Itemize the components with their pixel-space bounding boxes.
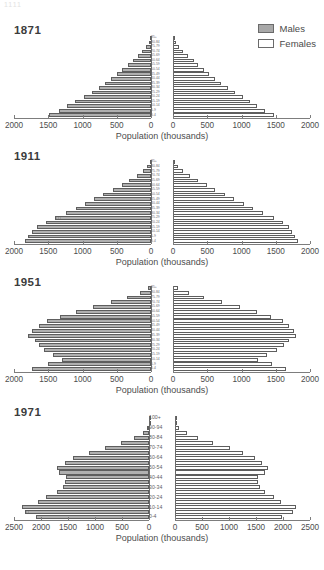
pyramid-panel-1971: 1971 0-410-1420-2430-3440-4450-5460-6470… — [0, 400, 324, 570]
bar-female — [173, 169, 183, 173]
bar-female — [173, 174, 190, 178]
bar-female — [173, 188, 215, 192]
bar-female — [173, 179, 198, 183]
bar-male — [105, 82, 151, 86]
bar-male — [93, 305, 151, 309]
bar-male — [111, 77, 151, 81]
bar-male — [111, 300, 151, 304]
center-axis-line — [151, 160, 152, 244]
x-tick-label: 500 — [200, 121, 214, 130]
center-axis-line — [173, 36, 174, 118]
age-group-label: 70-74 — [151, 174, 173, 177]
x-tick — [276, 241, 277, 244]
x-axis-title: Population (thousands) — [0, 533, 324, 543]
x-tick-label: 1000 — [86, 523, 104, 532]
x-axis-line — [14, 118, 151, 119]
bar-male — [28, 235, 151, 239]
bar-male — [59, 109, 151, 113]
bar-male — [46, 495, 149, 499]
age-group-label: 85+ — [151, 36, 173, 39]
bar-female — [173, 54, 188, 58]
age-group-label: 40-44 — [151, 77, 173, 80]
x-tick — [276, 115, 277, 118]
age-group-label: 70-74 — [151, 50, 173, 53]
bar-male — [60, 315, 151, 319]
x-tick-label: 500 — [115, 523, 129, 532]
x-tick-label: 2000 — [301, 375, 319, 384]
x-tick — [117, 241, 118, 244]
x-tick-label: 2000 — [301, 247, 319, 256]
age-group-label: 20-24 — [151, 95, 173, 98]
age-group-label: 80-84 — [151, 165, 173, 168]
bar-female — [173, 343, 284, 347]
age-group-label: 0-4 — [149, 514, 175, 519]
bar-male — [113, 188, 151, 192]
age-group-label: 25-29 — [151, 91, 173, 94]
age-group-label: 75-79 — [151, 170, 173, 173]
x-tick — [173, 369, 174, 372]
x-tick — [151, 115, 152, 118]
x-axis-title: Population (thousands) — [0, 131, 324, 141]
x-tick — [41, 517, 42, 520]
bar-male — [121, 441, 149, 445]
x-tick — [310, 241, 311, 244]
age-group-label: 60-64 — [149, 455, 175, 460]
x-tick — [14, 241, 15, 244]
age-group-label: 35-39 — [151, 334, 173, 337]
bar-male — [138, 54, 151, 58]
x-tick-label: 2000 — [5, 375, 23, 384]
legend-label-males: Males — [280, 23, 305, 34]
bar-male — [66, 211, 151, 215]
plot-area-1951: 0-45-910-1415-1920-2425-2930-3435-3940-4… — [0, 286, 324, 398]
bar-male — [117, 72, 151, 76]
bar-male — [143, 169, 151, 173]
bar-male — [63, 485, 149, 489]
age-group-label: 50-54 — [149, 465, 175, 470]
bar-male — [57, 466, 149, 470]
x-tick — [310, 115, 311, 118]
bar-female — [173, 72, 209, 76]
x-tick — [14, 517, 15, 520]
age-group-label: 65-69 — [151, 54, 173, 57]
x-tick-label: 0 — [171, 121, 176, 130]
x-tick — [68, 517, 69, 520]
legend-row-males: Males — [258, 23, 316, 34]
age-group-label: 80-84 — [149, 435, 175, 440]
x-tick-label: 0 — [147, 523, 152, 532]
bar-male — [32, 329, 151, 333]
bar-female — [173, 82, 221, 86]
bar-male — [57, 490, 149, 494]
x-tick-label: 1000 — [232, 247, 250, 256]
bar-female — [175, 466, 268, 470]
bar-female — [175, 441, 213, 445]
x-tick-label: 500 — [110, 375, 124, 384]
center-axis-line — [151, 36, 152, 118]
x-tick — [14, 369, 15, 372]
bar-male — [84, 95, 151, 99]
x-tick-label: 0 — [171, 247, 176, 256]
age-group-label: 60-64 — [151, 184, 173, 187]
age-group-label: 0-4 — [151, 114, 173, 117]
x-tick — [151, 369, 152, 372]
x-tick — [202, 517, 203, 520]
center-axis-line — [149, 416, 150, 520]
bar-female — [173, 324, 289, 328]
x-tick — [83, 115, 84, 118]
age-group-label: 0-4 — [151, 367, 173, 370]
center-axis-line — [173, 286, 174, 372]
bar-female — [173, 239, 298, 243]
x-tick — [48, 115, 49, 118]
bar-male — [25, 239, 151, 243]
x-tick-label: 500 — [110, 121, 124, 130]
males-swatch-icon — [258, 24, 274, 33]
x-tick — [242, 241, 243, 244]
bar-male — [92, 91, 151, 95]
x-tick — [83, 241, 84, 244]
x-tick-label: 2000 — [5, 247, 23, 256]
bar-female — [173, 291, 189, 295]
x-tick-label: 0 — [149, 247, 154, 256]
x-tick — [173, 115, 174, 118]
age-group-label: 70-74 — [151, 301, 173, 304]
bar-male — [137, 174, 151, 178]
bar-male — [65, 461, 149, 465]
